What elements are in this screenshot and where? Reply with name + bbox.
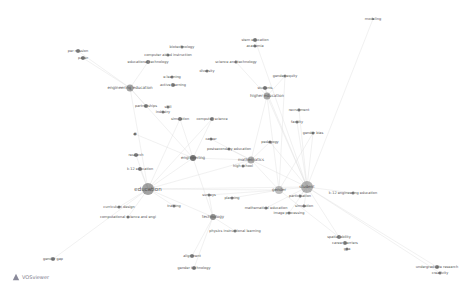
network-node[interactable]: gender bias bbox=[303, 131, 324, 135]
node-label: participation bbox=[289, 194, 311, 198]
vosviewer-logo: VOSviewer bbox=[12, 273, 49, 281]
network-node[interactable]: mathematical education bbox=[245, 206, 288, 210]
network-node[interactable]: k-12 engineering education bbox=[329, 191, 377, 195]
network-node[interactable]: active learning bbox=[160, 83, 186, 87]
network-edge bbox=[251, 96, 267, 160]
network-node[interactable]: postsecondary education bbox=[207, 147, 251, 151]
network-node[interactable]: stem education bbox=[241, 38, 268, 42]
node-label: computer science bbox=[196, 117, 227, 121]
network-node[interactable]: engineering bbox=[181, 155, 205, 161]
network-node[interactable]: student bbox=[299, 181, 315, 193]
network-node[interactable]: recruitment bbox=[289, 108, 310, 112]
node-label: partnerships bbox=[135, 104, 157, 108]
network-node[interactable]: high school bbox=[233, 164, 253, 168]
network-edge bbox=[148, 119, 212, 189]
network-node[interactable]: pedagogy bbox=[261, 140, 278, 144]
node-label: mathematical education bbox=[245, 206, 288, 210]
network-node[interactable]: research bbox=[128, 153, 143, 157]
network-edge bbox=[251, 160, 307, 187]
network-canvas[interactable]: educationstudentgenderengineering educat… bbox=[0, 0, 473, 302]
network-node[interactable]: simulation bbox=[171, 117, 189, 121]
node-label: gender bias bbox=[303, 131, 324, 135]
network-node[interactable]: biotechnology bbox=[170, 45, 195, 49]
network-node[interactable]: simulation bbox=[295, 204, 313, 208]
node-label: physics instructional learning bbox=[209, 229, 260, 233]
node-label: alignment bbox=[183, 254, 201, 258]
network-node[interactable]: diversity bbox=[199, 69, 214, 73]
network-node[interactable]: training bbox=[167, 204, 181, 208]
network-node[interactable]: spatial ability bbox=[327, 235, 351, 239]
network-node[interactable]: computer aided instruction bbox=[144, 53, 192, 57]
network-node[interactable]: educational technology bbox=[127, 60, 168, 64]
network-edge bbox=[192, 217, 213, 256]
network-node[interactable]: curriculum design bbox=[103, 205, 134, 209]
node-label: biotechnology bbox=[170, 45, 195, 49]
node-label: training bbox=[167, 204, 181, 208]
network-node[interactable]: higher education bbox=[250, 93, 284, 100]
network-node[interactable]: physics instructional learning bbox=[209, 229, 260, 233]
network-node[interactable]: engineering education bbox=[107, 85, 153, 92]
network-node[interactable]: gender equity bbox=[273, 74, 298, 78]
network-node[interactable]: career barriers bbox=[332, 241, 358, 245]
node-label: gpa bbox=[344, 247, 351, 251]
node-label: computer aided instruction bbox=[144, 53, 192, 57]
node-label: k-12 engineering education bbox=[329, 191, 377, 195]
network-node[interactable]: k-12 education bbox=[127, 167, 153, 171]
node-label: technology bbox=[202, 214, 225, 219]
node-label: undergraduate research bbox=[416, 265, 458, 269]
network-node[interactable]: gender gap bbox=[43, 257, 64, 261]
network-node[interactable]: ai bbox=[133, 132, 136, 136]
node-label: curriculum design bbox=[103, 205, 134, 209]
network-edge bbox=[148, 189, 279, 190]
network-node[interactable]: e-learning bbox=[163, 75, 181, 79]
network-node[interactable]: modeling bbox=[365, 17, 381, 21]
network-node[interactable]: partnerships bbox=[135, 104, 157, 108]
node-label: pedagogy bbox=[261, 140, 278, 144]
network-node[interactable]: per mission bbox=[68, 49, 88, 53]
network-node[interactable]: creativity bbox=[432, 271, 448, 275]
network-edge bbox=[193, 158, 213, 217]
network-node[interactable]: technology bbox=[202, 214, 225, 220]
network-node[interactable]: undergraduate research bbox=[416, 265, 458, 269]
network-node[interactable]: gender technology bbox=[178, 266, 211, 270]
network-node[interactable]: students bbox=[257, 86, 272, 90]
vosviewer-logo-text: VOSviewer bbox=[22, 274, 49, 280]
node-label: faculty bbox=[291, 120, 303, 124]
network-node[interactable]: skill bbox=[165, 105, 172, 109]
network-node[interactable]: academia bbox=[246, 44, 263, 48]
node-label: simulation bbox=[295, 204, 313, 208]
node-label: computational science and engi bbox=[100, 215, 156, 219]
network-node[interactable]: computer science bbox=[196, 117, 227, 121]
node-label: modeling bbox=[365, 17, 381, 21]
network-node[interactable]: gpa bbox=[344, 247, 351, 251]
vosviewer-logo-icon bbox=[12, 273, 20, 281]
network-edge bbox=[130, 88, 193, 158]
network-edge bbox=[148, 119, 180, 189]
network-node[interactable]: participation bbox=[289, 194, 311, 198]
node-label: gender gap bbox=[43, 257, 64, 261]
network-node[interactable]: planning bbox=[224, 196, 239, 200]
network-edge bbox=[307, 19, 373, 187]
network-edges bbox=[53, 19, 440, 273]
network-edge bbox=[251, 160, 279, 190]
node-label: per mission bbox=[68, 49, 88, 53]
network-node[interactable]: industry bbox=[156, 110, 170, 114]
network-edge bbox=[265, 88, 307, 187]
network-edge bbox=[209, 190, 279, 195]
network-node[interactable]: image processing bbox=[274, 211, 305, 215]
network-node[interactable]: alignment bbox=[183, 254, 201, 258]
node-label: gender equity bbox=[273, 74, 298, 78]
network-node[interactable]: computational science and engi bbox=[100, 215, 156, 219]
network-node[interactable]: gender bbox=[272, 186, 287, 194]
network-node[interactable]: science and technology bbox=[215, 60, 256, 64]
node-label: engineering bbox=[181, 155, 205, 160]
node-label: creativity bbox=[432, 271, 448, 275]
network-edge bbox=[83, 58, 130, 88]
network-node[interactable]: paper bbox=[78, 56, 89, 60]
network-node[interactable]: surveys bbox=[202, 193, 216, 197]
network-node[interactable]: faculty bbox=[291, 120, 303, 124]
network-edge bbox=[130, 62, 148, 88]
network-node[interactable]: career bbox=[205, 137, 217, 141]
node-label: simulation bbox=[171, 117, 189, 121]
network-nodes: educationstudentgenderengineering educat… bbox=[43, 17, 458, 275]
